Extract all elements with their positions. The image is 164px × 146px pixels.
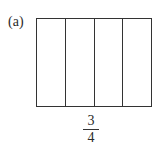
rectangle-part-1 <box>37 19 66 106</box>
fraction-caption: 3 4 <box>80 114 102 145</box>
rectangle-part-2 <box>66 19 95 106</box>
figure-label: (a) <box>8 14 24 30</box>
rectangle-part-3 <box>95 19 124 106</box>
fraction-rectangle <box>36 18 152 107</box>
fraction-numerator: 3 <box>80 114 102 128</box>
fraction-denominator: 4 <box>80 131 102 145</box>
rectangle-part-4 <box>123 19 151 106</box>
